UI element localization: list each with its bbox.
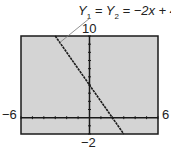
plot-area: [0, 0, 171, 149]
